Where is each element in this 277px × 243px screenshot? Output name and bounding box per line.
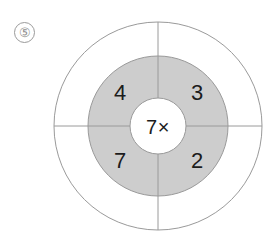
inner-ring-digit-bottom-right: 2 xyxy=(191,148,203,173)
worksheet-exercise: ⑤ 7× 4 3 7 2 xyxy=(0,0,277,243)
multiplication-wheel: 7× 4 3 7 2 xyxy=(52,20,264,232)
problem-number-badge: ⑤ xyxy=(14,22,35,43)
inner-ring-digit-top-left: 4 xyxy=(114,80,126,105)
inner-ring-digit-top-right: 3 xyxy=(191,80,203,105)
center-multiplier-label: 7× xyxy=(146,116,170,138)
inner-ring-digit-bottom-left: 7 xyxy=(114,148,126,173)
